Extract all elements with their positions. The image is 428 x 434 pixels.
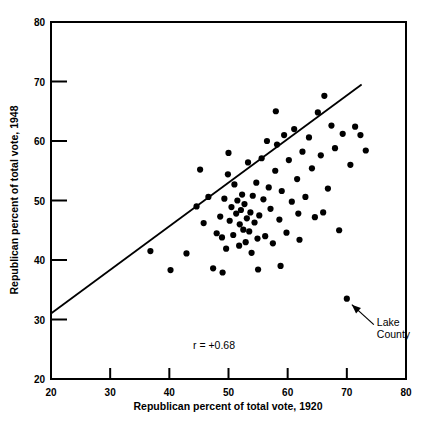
data-point — [291, 126, 297, 132]
data-point — [254, 235, 260, 241]
data-point — [250, 193, 256, 199]
data-point — [239, 191, 245, 197]
data-point — [267, 206, 273, 212]
y-axis-title: Republican percent of total vote, 1948 — [8, 105, 20, 294]
data-point — [259, 155, 265, 161]
y-axis-ticks — [51, 82, 67, 380]
data-point — [248, 250, 254, 256]
data-point — [230, 232, 236, 238]
x-tick-label: 30 — [105, 387, 117, 398]
data-point — [296, 237, 302, 243]
x-axis-tick-labels: 20304050607080 — [45, 387, 412, 398]
data-point — [227, 218, 233, 224]
data-point — [237, 221, 243, 227]
data-point — [240, 227, 246, 233]
data-point — [147, 248, 153, 254]
data-point — [295, 210, 301, 216]
data-point — [321, 93, 327, 99]
y-tick-label: 20 — [34, 374, 46, 385]
data-point — [281, 132, 287, 138]
scatter-chart: 20304050607080 20304050607080 Lake Count… — [0, 0, 428, 434]
data-point — [244, 215, 250, 221]
x-tick-label: 60 — [282, 387, 294, 398]
data-point — [256, 212, 262, 218]
data-point — [234, 197, 240, 203]
data-point — [167, 267, 173, 273]
data-point — [223, 246, 229, 252]
data-point — [183, 250, 189, 256]
data-point — [302, 194, 308, 200]
y-tick-label: 30 — [34, 315, 46, 326]
plot-frame — [51, 22, 406, 379]
data-point — [253, 180, 259, 186]
data-point — [332, 145, 338, 151]
x-tick-label: 40 — [164, 387, 176, 398]
data-point — [309, 165, 315, 171]
x-axis-ticks — [110, 368, 347, 379]
x-axis-title: Republican percent of total vote, 1920 — [133, 400, 322, 412]
data-point — [283, 230, 289, 236]
data-point — [266, 184, 272, 190]
x-tick-label: 70 — [341, 387, 353, 398]
data-point — [238, 207, 244, 213]
correlation-label: r = +0.68 — [193, 339, 235, 351]
data-point — [251, 219, 257, 225]
x-tick-label: 80 — [400, 387, 412, 398]
annotation-label-line1: Lake — [377, 316, 400, 328]
data-point — [289, 199, 295, 205]
y-axis-tick-labels: 20304050607080 — [34, 17, 46, 385]
data-point — [193, 203, 199, 209]
data-point — [306, 134, 312, 140]
data-point — [228, 204, 234, 210]
data-point — [352, 124, 358, 130]
data-point — [231, 181, 237, 187]
annotation-arrow — [352, 305, 374, 325]
data-point — [214, 230, 220, 236]
y-tick-label: 80 — [34, 17, 46, 28]
data-point — [279, 188, 285, 194]
data-point — [221, 196, 227, 202]
data-point — [276, 216, 282, 222]
data-point — [210, 265, 216, 271]
data-point — [264, 138, 270, 144]
data-point — [219, 234, 225, 240]
data-point — [245, 159, 251, 165]
data-point — [340, 131, 346, 137]
data-point — [246, 228, 252, 234]
y-tick-label: 50 — [34, 196, 46, 207]
data-point — [312, 214, 318, 220]
data-point — [225, 171, 231, 177]
y-tick-label: 40 — [34, 255, 46, 266]
data-point — [320, 209, 326, 215]
x-tick-label: 20 — [45, 387, 57, 398]
plot-svg: 20304050607080 20304050607080 Lake Count… — [0, 0, 428, 434]
data-point — [274, 141, 280, 147]
data-points — [147, 93, 369, 302]
data-point — [273, 108, 279, 114]
data-point — [201, 220, 207, 226]
data-point — [315, 109, 321, 115]
data-point — [363, 147, 369, 153]
data-point — [243, 239, 249, 245]
data-point — [197, 166, 203, 172]
data-point — [270, 240, 276, 246]
data-point — [225, 150, 231, 156]
data-point — [247, 209, 253, 215]
data-point — [344, 296, 350, 302]
data-point — [272, 168, 278, 174]
data-point — [241, 201, 247, 207]
data-point — [205, 194, 211, 200]
data-point — [325, 186, 331, 192]
data-point — [236, 243, 242, 249]
data-point — [299, 149, 305, 155]
annotation-label-line2: County — [377, 328, 411, 340]
x-tick-label: 50 — [223, 387, 235, 398]
data-point — [262, 233, 268, 239]
data-point — [294, 176, 300, 182]
data-point — [286, 157, 292, 163]
data-point — [260, 196, 266, 202]
data-point — [347, 162, 353, 168]
y-tick-label: 70 — [34, 77, 46, 88]
data-point — [318, 152, 324, 158]
data-point — [217, 213, 223, 219]
